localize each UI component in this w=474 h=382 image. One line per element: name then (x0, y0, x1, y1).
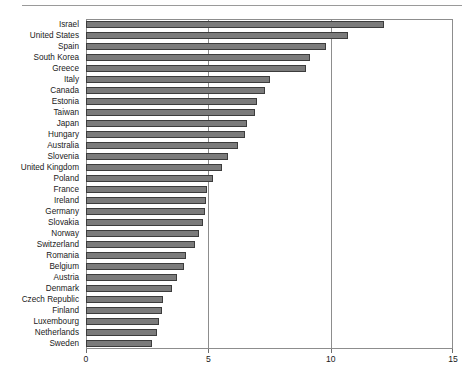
y-axis-label: Netherlands (0, 328, 82, 337)
y-axis-label: Hungary (0, 130, 82, 139)
bar-row (86, 206, 453, 217)
bar-row (86, 41, 453, 52)
x-axis-tick (331, 349, 332, 353)
y-axis-label: United Kingdom (0, 163, 82, 172)
bar (86, 153, 228, 161)
x-axis-tick-label: 10 (326, 354, 336, 364)
y-axis-label: Luxembourg (0, 317, 82, 326)
y-axis-label: Ireland (0, 196, 82, 205)
bar (86, 219, 203, 227)
bar (86, 296, 163, 304)
bar-row (86, 195, 453, 206)
bar-row (86, 294, 453, 305)
y-axis-label: Spain (0, 42, 82, 51)
y-axis-label: Switzerland (0, 240, 82, 249)
x-axis-tick-label: 15 (448, 354, 458, 364)
bar (86, 274, 177, 282)
y-axis-category-labels: IsraelUnited StatesSpainSouth KoreaGreec… (0, 19, 82, 349)
bar (86, 65, 306, 73)
bar (86, 230, 199, 238)
bar (86, 43, 326, 51)
bar (86, 340, 152, 348)
bar-row (86, 217, 453, 228)
bar (86, 21, 384, 29)
y-axis-label: Romania (0, 251, 82, 260)
bar-row (86, 316, 453, 327)
bar (86, 318, 159, 326)
bar-row (86, 96, 453, 107)
y-axis-label: Poland (0, 174, 82, 183)
bar-row (86, 52, 453, 63)
bar-row (86, 272, 453, 283)
y-axis-label: Belgium (0, 262, 82, 271)
bar (86, 109, 255, 117)
bar-row (86, 239, 453, 250)
bar (86, 175, 213, 183)
y-axis-label: Slovenia (0, 152, 82, 161)
y-axis-label: Greece (0, 64, 82, 73)
y-axis-label: Germany (0, 207, 82, 216)
bar-row (86, 327, 453, 338)
bar (86, 120, 247, 128)
x-axis-tick-label: 5 (206, 354, 211, 364)
bar (86, 54, 310, 62)
y-axis-label: France (0, 185, 82, 194)
y-axis-label: Israel (0, 20, 82, 29)
y-axis-label: Taiwan (0, 108, 82, 117)
x-axis: 051015 (0, 349, 474, 373)
bar-row (86, 283, 453, 294)
bar-row (86, 250, 453, 261)
bar (86, 32, 348, 40)
y-axis-label: Canada (0, 86, 82, 95)
y-axis-label: United States (0, 31, 82, 40)
bar-chart-figure: IsraelUnited StatesSpainSouth KoreaGreec… (0, 0, 474, 382)
bar (86, 87, 265, 95)
bar (86, 263, 184, 271)
bar-row (86, 173, 453, 184)
bar-row (86, 140, 453, 151)
bar (86, 76, 270, 84)
y-axis-label: Norway (0, 229, 82, 238)
x-axis-tick (208, 349, 209, 353)
bars-layer (86, 19, 453, 349)
y-axis-label: Austria (0, 273, 82, 282)
bar-row (86, 151, 453, 162)
bar-row (86, 118, 453, 129)
bar-row (86, 261, 453, 272)
bar-row (86, 338, 453, 349)
bar (86, 142, 238, 150)
y-axis-label: South Korea (0, 53, 82, 62)
bar (86, 131, 245, 139)
bar (86, 329, 157, 337)
bar-row (86, 107, 453, 118)
bar-row (86, 63, 453, 74)
x-axis-tick-label: 0 (84, 354, 89, 364)
bar-row (86, 129, 453, 140)
bar-row (86, 228, 453, 239)
bar-row (86, 305, 453, 316)
y-axis-label: Slovakia (0, 218, 82, 227)
bar (86, 197, 206, 205)
y-axis-label: Czech Republic (0, 295, 82, 304)
bar-row (86, 19, 453, 30)
x-axis-tick (86, 349, 87, 353)
bar (86, 164, 222, 172)
bar (86, 208, 205, 216)
y-axis-label: Australia (0, 141, 82, 150)
bar-row (86, 162, 453, 173)
y-axis-label: Italy (0, 75, 82, 84)
y-axis-label: Denmark (0, 284, 82, 293)
x-axis-tick (452, 349, 453, 353)
bar (86, 252, 186, 260)
bar (86, 98, 257, 106)
bar (86, 241, 195, 249)
bar (86, 285, 172, 293)
y-axis-label: Finland (0, 306, 82, 315)
y-axis-label: Sweden (0, 339, 82, 348)
y-axis-label: Estonia (0, 97, 82, 106)
y-axis-label: Japan (0, 119, 82, 128)
bar (86, 186, 207, 194)
bar-row (86, 74, 453, 85)
bar-row (86, 85, 453, 96)
bar-row (86, 30, 453, 41)
